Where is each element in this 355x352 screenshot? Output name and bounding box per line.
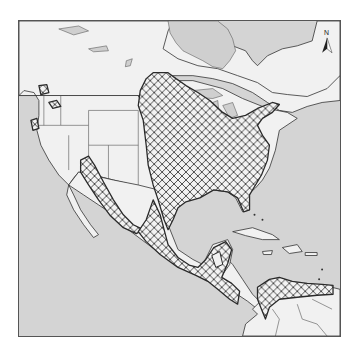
range-pacific-nw-patch-3 (39, 85, 49, 95)
north-arrow-label: N (324, 29, 329, 36)
range-pacific-nw-patch-2 (31, 118, 39, 130)
map-frame: N (18, 20, 341, 337)
range-map: N (19, 21, 340, 336)
